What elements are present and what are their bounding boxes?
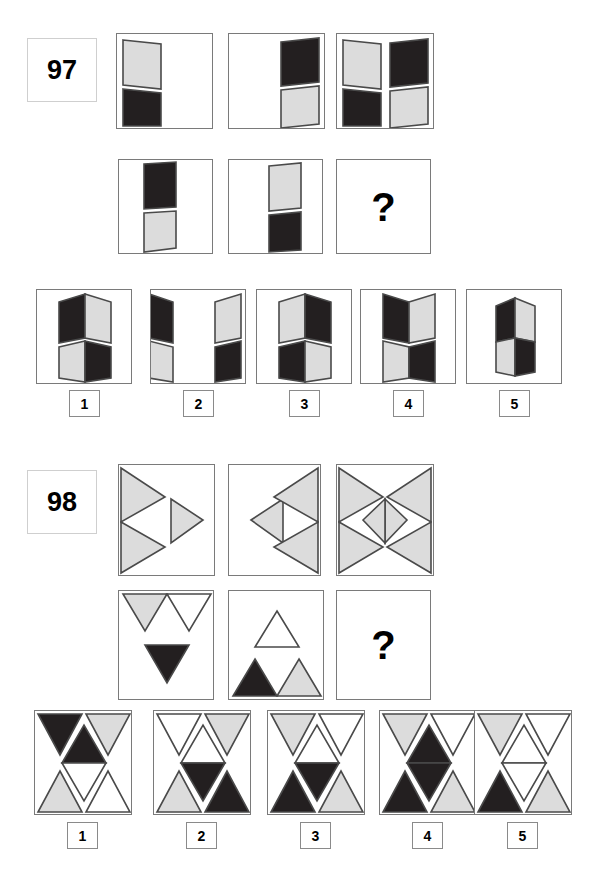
puzzle-98-option-2[interactable] (153, 710, 251, 815)
triangle-figure (229, 465, 321, 576)
puzzle-98-option-number-5[interactable]: 5 (507, 822, 538, 849)
puzzle-98-row1-cell2 (228, 464, 321, 576)
fold-figure (119, 160, 213, 254)
puzzle-97-option-4[interactable] (360, 289, 456, 384)
triangle-figure (119, 465, 215, 576)
puzzle-97-option-1[interactable] (36, 289, 132, 384)
puzzle-97: 97 (0, 0, 599, 430)
triangle-figure-combined (337, 465, 434, 576)
puzzle-98: 98 (0, 440, 599, 885)
puzzle-98-option-4[interactable] (379, 710, 477, 815)
puzzle-97-row2-cell3-missing[interactable]: ? (336, 159, 431, 254)
puzzle-97-option-5[interactable] (466, 289, 562, 384)
fold-figure-combined (337, 34, 434, 129)
fold-figure (229, 34, 325, 129)
puzzle-97-option-3[interactable] (256, 289, 352, 384)
puzzle-97-row1-cell2 (228, 33, 325, 129)
puzzle-97-option-2[interactable] (150, 289, 246, 384)
puzzle-98-option-1[interactable] (34, 710, 132, 815)
puzzle-98-option-5[interactable] (474, 710, 572, 815)
puzzle-97-option-number-2[interactable]: 2 (183, 390, 214, 417)
puzzle-97-row1-cell3 (336, 33, 434, 129)
puzzle-97-option-number-3[interactable]: 3 (289, 390, 320, 417)
option-figure (268, 711, 365, 815)
puzzle-97-row2-cell1 (118, 159, 213, 254)
puzzle-98-option-number-4[interactable]: 4 (412, 822, 443, 849)
puzzle-98-row2-cell1 (118, 590, 214, 700)
puzzle-98-option-3[interactable] (267, 710, 365, 815)
triangle-figure (119, 591, 214, 700)
fold-figure (117, 34, 213, 129)
puzzle-97-row2-cell2 (228, 159, 323, 254)
item-number-97: 97 (27, 38, 97, 102)
puzzle-97-row1-cell1 (116, 33, 213, 129)
puzzle-98-row1-cell3 (336, 464, 434, 576)
puzzle-97-option-number-4[interactable]: 4 (393, 390, 424, 417)
option-figure (361, 290, 456, 384)
option-figure (257, 290, 352, 384)
puzzle-98-option-number-1[interactable]: 1 (67, 822, 98, 849)
puzzle-97-option-number-5[interactable]: 5 (499, 390, 530, 417)
option-figure (467, 290, 562, 384)
puzzle-98-row2-cell2 (228, 590, 324, 700)
puzzle-98-option-number-2[interactable]: 2 (186, 822, 217, 849)
puzzle-98-row2-cell3-missing[interactable]: ? (336, 590, 431, 700)
option-figure (37, 290, 132, 384)
fold-figure (229, 160, 323, 254)
test-sheet: 97 (0, 0, 599, 885)
puzzle-98-option-number-3[interactable]: 3 (300, 822, 331, 849)
option-figure (154, 711, 251, 815)
triangle-figure (229, 591, 324, 700)
puzzle-97-option-number-1[interactable]: 1 (69, 390, 100, 417)
option-figure (380, 711, 477, 815)
option-figure (35, 711, 132, 815)
option-figure (475, 711, 572, 815)
option-figure (151, 290, 246, 384)
puzzle-98-row1-cell1 (118, 464, 215, 576)
item-number-98: 98 (27, 470, 97, 534)
